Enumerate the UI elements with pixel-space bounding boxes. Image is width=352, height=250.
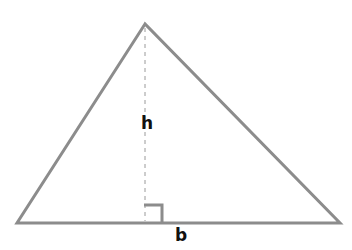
- triangle-diagram: [0, 0, 352, 250]
- height-label: h: [141, 115, 153, 132]
- base-label: b: [175, 227, 187, 244]
- right-angle-marker: [144, 205, 162, 222]
- triangle-outline: [17, 24, 340, 223]
